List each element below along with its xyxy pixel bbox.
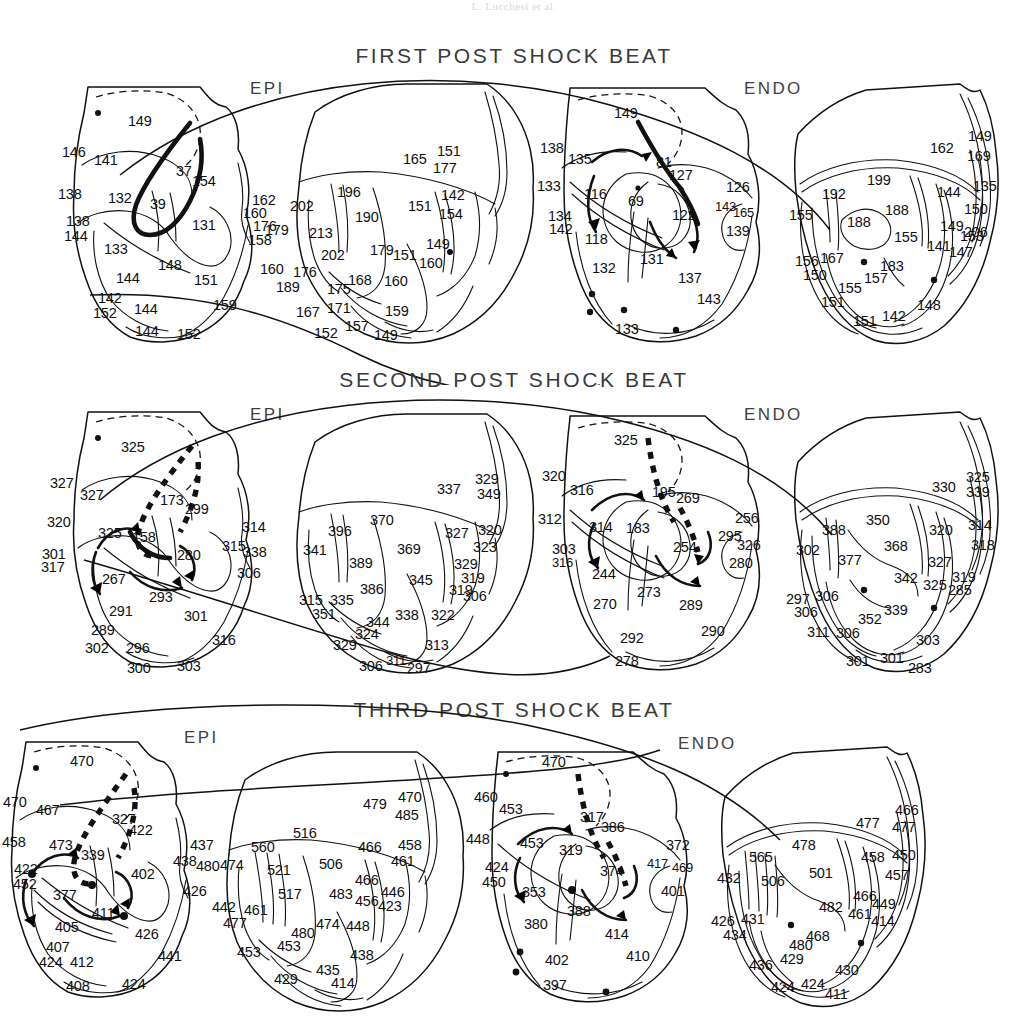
value-label: 466 [895, 803, 919, 818]
value-label: 118 [585, 232, 608, 247]
value-label: 195 [652, 485, 676, 500]
value-label: 386 [360, 582, 384, 597]
value-label: 448 [346, 919, 370, 934]
value-label: 157 [345, 319, 369, 334]
value-label: 461 [848, 907, 872, 922]
value-label: 133 [615, 322, 639, 337]
panel-row3-epi-lateral: 479 470 485 516 466 458 560 506 461 474 … [215, 740, 470, 1025]
value-label: 501 [809, 866, 833, 881]
value-label: 411 [92, 906, 115, 921]
value-label: 414 [871, 914, 895, 929]
value-label: 422 [129, 823, 153, 838]
value-label: 402 [545, 953, 569, 968]
value-label: 320 [929, 523, 953, 538]
value-label: 460 [474, 790, 498, 805]
value-label: 370 [370, 513, 394, 528]
value-label: 159 [385, 304, 409, 319]
value-label: 138 [540, 141, 564, 156]
value-label: 154 [439, 207, 463, 222]
value-label: 407 [46, 940, 70, 955]
value-label: 144 [64, 229, 88, 244]
value-label: 320 [47, 515, 71, 530]
value-label: 69 [628, 194, 644, 209]
value-label: 330 [932, 480, 956, 495]
value-label: 141 [927, 239, 951, 254]
value-label: 424 [485, 860, 509, 875]
value-label: 213 [309, 226, 333, 241]
value-label: 244 [592, 567, 616, 582]
panel-row1-epi-lateral: 151 165 177 196 142 151 154 202 190 179 … [285, 72, 540, 367]
value-label: 396 [328, 524, 352, 539]
value-label: 151 [393, 248, 417, 263]
value-label: 380 [524, 917, 548, 932]
value-label: 326 [737, 538, 761, 553]
value-label: 135 [568, 152, 592, 167]
panel-row3-endo-septal: 470 460 453 317 386 448 453 372 319 424 … [458, 730, 708, 1020]
value-label: 314 [968, 518, 992, 533]
value-label: 131 [640, 252, 664, 267]
value-label: 474 [316, 917, 340, 932]
value-label: 560 [251, 840, 275, 855]
value-label: 417 [647, 857, 668, 870]
value-label: 432 [717, 871, 741, 886]
value-label: 448 [466, 832, 490, 847]
value-label: 314 [242, 520, 266, 535]
value-label: 306 [815, 589, 839, 604]
panel-row1-epi-anterior: 149 146 141 37 154 138 132 39 131 162 16… [40, 75, 290, 365]
value-label: 469 [672, 861, 693, 874]
value-label: 397 [543, 978, 567, 993]
value-label: 521 [267, 863, 291, 878]
value-label: 37 [176, 164, 192, 179]
value-label: 138 [58, 187, 82, 202]
value-label: 325 [966, 470, 990, 485]
value-label: 179 [370, 243, 394, 258]
value-label: 179 [265, 223, 289, 238]
value-label: 339 [81, 848, 105, 863]
value-label: 280 [729, 556, 753, 571]
value-label: 289 [91, 623, 115, 638]
value-label: 190 [355, 210, 379, 225]
value-label: 127 [669, 168, 693, 183]
value-label: 188 [885, 203, 909, 218]
value-label: 126 [726, 180, 750, 195]
value-label: 148 [917, 298, 941, 313]
value-label: 278 [615, 654, 639, 669]
value-label: 142 [441, 188, 465, 203]
value-label: 312 [538, 512, 562, 527]
value-label: 338 [395, 608, 419, 623]
value-label: 325 [98, 526, 122, 541]
value-label: 149 [614, 106, 638, 121]
value-label: 506 [319, 857, 343, 872]
value-label: 424 [122, 977, 146, 992]
value-label: 352 [858, 612, 882, 627]
value-label: 453 [520, 836, 544, 851]
value-label: 293 [149, 590, 173, 605]
panel-row3-epi-anterior: 470 470 467 327 422 458 473 339 437 438 … [0, 730, 228, 1020]
value-label: 320 [478, 523, 502, 538]
value-label: 414 [605, 927, 629, 942]
value-label: 388 [567, 904, 591, 919]
value-label: 142 [882, 309, 906, 324]
value-label: 151 [194, 273, 218, 288]
value-label: 168 [348, 273, 372, 288]
value-label: 256 [735, 511, 759, 526]
value-label: 338 [243, 545, 267, 560]
value-label: 477 [223, 916, 247, 931]
value-label: 429 [780, 952, 804, 967]
value-label: 506 [761, 874, 785, 889]
value-label: 138 [66, 214, 90, 229]
value-label: 151 [853, 314, 877, 329]
panel-row2-endo-septal: 325 320 316 195 269 312 256 314 183 295 … [530, 400, 780, 692]
value-label: 468 [806, 929, 830, 944]
value-label: 299 [185, 502, 209, 517]
value-label: 177 [433, 161, 457, 176]
value-label: 317 [41, 560, 65, 575]
value-label: 342 [894, 571, 918, 586]
value-label: 150 [964, 202, 988, 217]
value-label: 301 [846, 654, 870, 669]
value-label: 401 [661, 884, 685, 899]
value-label: 270 [593, 597, 617, 612]
value-label: 151 [437, 144, 461, 159]
value-label: 473 [49, 838, 73, 853]
value-label: 311 [807, 625, 830, 640]
